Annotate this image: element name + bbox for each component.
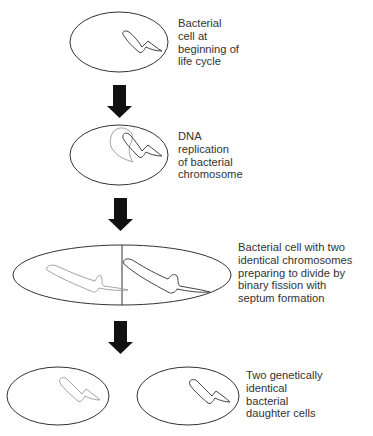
chromosome-dark [190, 380, 230, 404]
stage-2-cell [70, 125, 168, 185]
label-line: daughter cells [246, 407, 323, 420]
stage-2-label: DNA replication of bacterial chromosome [178, 130, 243, 181]
label-line: cell at [178, 30, 239, 43]
label-line: Bacterial [178, 17, 239, 30]
chromosome-light [60, 378, 100, 402]
replicating-dna [110, 128, 133, 162]
label-line: bacterial [246, 395, 323, 408]
label-line: identical [246, 382, 323, 395]
down-arrow-icon [108, 198, 133, 231]
label-line: Two genetically [246, 369, 323, 382]
stage-3-label: Bacterial cell with two identical chromo… [238, 241, 352, 305]
label-line: chromosome [178, 168, 243, 181]
label-line: binary fission with [238, 279, 352, 292]
chromosome-light [47, 265, 128, 292]
daughter-cell-1 [7, 367, 109, 425]
chromosome [123, 133, 162, 157]
label-line: beginning of [178, 43, 239, 56]
stage-1-label: Bacterial cell at beginning of life cycl… [178, 17, 239, 68]
stage-4-label: Two genetically identical bacterial daug… [246, 369, 323, 420]
chromosome-dark [124, 259, 210, 293]
label-line: identical chromosomes [238, 254, 352, 267]
label-line: replication [178, 143, 243, 156]
label-line: Bacterial cell with two [238, 241, 352, 254]
daughter-cell-2 [137, 367, 239, 425]
down-arrow-icon [107, 85, 132, 118]
stage-1-cell [70, 12, 168, 72]
label-line: septum formation [238, 292, 352, 305]
label-line: of bacterial [178, 156, 243, 169]
label-line: life cycle [178, 55, 239, 68]
label-line: DNA [178, 130, 243, 143]
down-arrow-icon [108, 321, 133, 354]
label-line: preparing to divide by [238, 267, 352, 280]
stage-3-cell [13, 245, 231, 305]
chromosome [123, 31, 162, 53]
